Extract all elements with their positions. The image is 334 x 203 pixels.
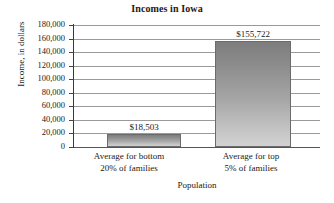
y-axis-tick-mark: [69, 120, 74, 121]
y-axis-tick-mark: [69, 106, 74, 107]
y-axis-tick-mark: [69, 147, 74, 148]
y-axis-tick-mark: [69, 39, 74, 40]
bar-chart: Incomes in Iowa Income, in dollars Popul…: [0, 0, 334, 203]
y-axis-tick-mark: [69, 133, 74, 134]
y-axis-tick-mark: [69, 52, 74, 53]
bar-value-label: $18,503: [95, 122, 193, 132]
gridline: [74, 25, 320, 26]
x-axis-category-label: Average for bottom20% of families: [74, 151, 184, 174]
y-axis-tick-mark: [69, 79, 74, 80]
y-axis-tick-label: 140,000: [5, 47, 65, 56]
x-axis-category-label-line: Average for bottom: [74, 151, 184, 163]
x-axis-category-label-line: 20% of families: [74, 163, 184, 175]
y-axis-tick-label: 60,000: [5, 101, 65, 110]
bar: [107, 134, 181, 147]
y-axis-tick-mark: [69, 25, 74, 26]
bar: [215, 41, 291, 147]
y-axis-tick-label: 100,000: [5, 74, 65, 83]
y-axis-tick-label: 40,000: [5, 115, 65, 124]
x-axis-category-label: Average for top5% of families: [196, 151, 306, 174]
x-axis-category-label-line: Average for top: [196, 151, 306, 163]
y-axis-tick-label: 160,000: [5, 34, 65, 43]
y-axis-tick-label: 20,000: [5, 128, 65, 137]
x-axis-category-label-line: 5% of families: [196, 163, 306, 175]
y-axis-tick-label: 120,000: [5, 61, 65, 70]
bar-value-label: $155,722: [203, 29, 303, 39]
chart-title: Incomes in Iowa: [0, 3, 334, 14]
y-axis-tick-label: 0: [5, 142, 65, 151]
gridline: [74, 147, 320, 148]
y-axis-tick-mark: [69, 66, 74, 67]
x-axis-title: Population: [74, 180, 320, 190]
y-axis-tick-label: 80,000: [5, 88, 65, 97]
y-axis-tick-mark: [69, 93, 74, 94]
y-axis-tick-label: 180,000: [5, 20, 65, 29]
